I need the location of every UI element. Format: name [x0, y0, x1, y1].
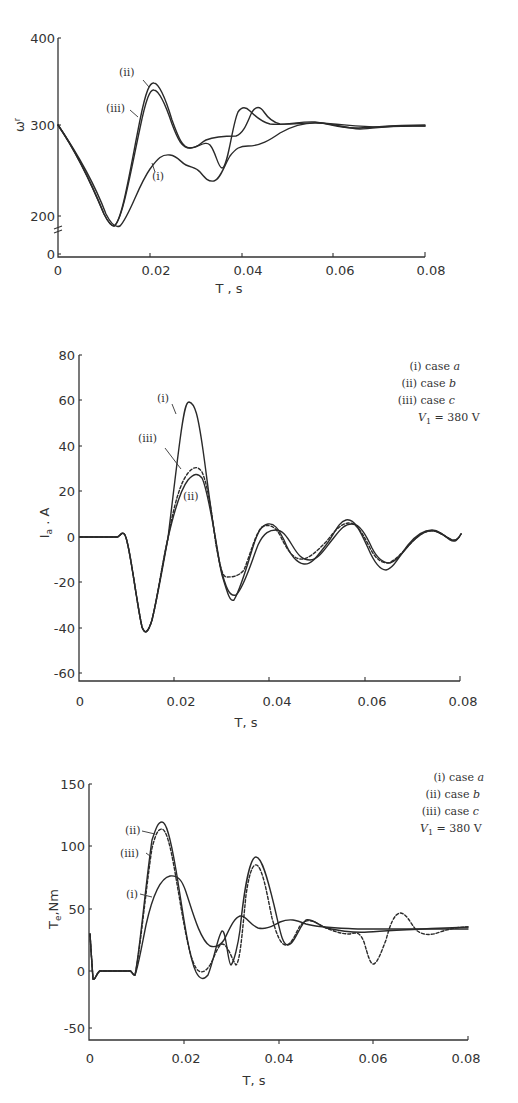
- bottom-y-tick-label: 0: [77, 964, 85, 979]
- bottom-leader-ii: [142, 831, 155, 834]
- chart-electromagnetic-torque: 150 100 50 0 -50 0 0.02 0.04 0.06 0.08 T…: [46, 771, 484, 1088]
- chart-armature-current: 80 60 40 20 0 -20 -40 -60 0 0.02 0.04 0.…: [37, 348, 481, 730]
- bottom-y-axis-label-unit: ,Nm: [46, 889, 61, 916]
- middle-y-tick-label: 40: [58, 439, 75, 454]
- bottom-annotation-i: (i): [126, 888, 138, 901]
- bottom-legend-item-ii: (ii) case b: [425, 788, 480, 801]
- middle-legend-voltage: V1 = 380 V: [418, 411, 481, 426]
- top-x-tick-label: 0.06: [326, 263, 355, 278]
- middle-curve-ii: [80, 474, 461, 631]
- bottom-legend-item-i: (i) case a: [433, 771, 484, 784]
- middle-y-tick-labels: 80 60 40 20 0 -20 -40 -60: [54, 348, 75, 681]
- top-y-tick-label: 400: [30, 31, 55, 46]
- middle-y-tick-label: -20: [54, 575, 75, 590]
- middle-annotation-iii: (iii): [138, 432, 157, 445]
- middle-x-axis-label: T, s: [234, 715, 258, 730]
- bottom-x-tick-label: 0.06: [359, 1051, 388, 1066]
- bottom-x-tick-labels: 0 0.02 0.04 0.06 0.08: [86, 1051, 481, 1066]
- middle-leader-i: [172, 404, 176, 414]
- bottom-annotation-iii: (iii): [120, 847, 139, 860]
- top-x-tick-labels: 0 0.02 0.04 0.06 0.08: [54, 263, 446, 278]
- middle-x-tick-label: 0.08: [449, 694, 478, 709]
- top-x-tick-label: 0.08: [417, 263, 446, 278]
- bottom-annotation-ii: (ii): [125, 824, 141, 837]
- top-y-tick-label: 0: [47, 247, 55, 262]
- middle-x-ticks: [174, 676, 460, 681]
- bottom-y-tick-labels: 150 100 50 0 -50: [60, 777, 85, 1036]
- bottom-curve-ii: [90, 822, 468, 979]
- chart-rotor-speed: 400 300 200 0 0 0.02 0.04 0.06 0.08 T , …: [12, 31, 445, 296]
- bottom-curve-iii: [90, 829, 468, 979]
- middle-x-tick-label: 0: [76, 694, 84, 709]
- bottom-x-tick-label: 0: [86, 1051, 94, 1066]
- figure-canvas: 400 300 200 0 0 0.02 0.04 0.06 0.08 T , …: [0, 0, 518, 1103]
- top-y-tick-label: 200: [30, 209, 55, 224]
- middle-legend-item-ii: (ii) case b: [401, 377, 456, 390]
- middle-y-tick-label: 0: [67, 530, 75, 545]
- middle-y-tick-label: -40: [54, 621, 75, 636]
- middle-y-tick-label: 80: [58, 348, 75, 363]
- bottom-legend: (i) case a (ii) case b (iii) case c V1 =…: [420, 771, 484, 837]
- middle-y-tick-label: 20: [58, 484, 75, 499]
- top-x-tick-label: 0.04: [234, 263, 263, 278]
- top-annotation-i: (i): [152, 170, 164, 183]
- bottom-y-axis-label: Te,Nm: [46, 889, 63, 930]
- bottom-y-axis-label-main: T: [46, 921, 61, 930]
- top-annotation-ii: (ii): [119, 66, 135, 79]
- top-y-tick-labels: 400 300 200 0: [30, 31, 55, 262]
- top-y-tick-label: 300: [30, 118, 55, 133]
- middle-x-tick-labels: 0 0.02 0.04 0.06 0.08: [76, 694, 478, 709]
- top-y-axis-label-main: ω: [12, 121, 27, 132]
- bottom-x-tick-label: 0.02: [172, 1051, 201, 1066]
- bottom-x-tick-label: 0.08: [452, 1051, 481, 1066]
- top-leader-iii: [130, 110, 138, 117]
- middle-y-axis-label: Ia . A: [37, 508, 54, 539]
- middle-legend-item-iii: (iii) case c: [398, 394, 455, 407]
- middle-y-axis-label-unit: . A: [37, 508, 52, 529]
- top-x-ticks: [150, 252, 425, 257]
- bottom-x-axis-label: T, s: [242, 1073, 266, 1088]
- bottom-y-tick-label: 100: [60, 839, 85, 854]
- bottom-x-tick-label: 0.04: [265, 1051, 294, 1066]
- middle-y-tick-label: -60: [54, 666, 75, 681]
- svg-text:Ia . A: Ia . A: [37, 508, 54, 539]
- top-leader-ii: [143, 80, 149, 87]
- top-x-tick-label: 0.02: [142, 263, 171, 278]
- middle-x-tick-label: 0.02: [167, 694, 196, 709]
- svg-text:ωr: ωr: [12, 117, 27, 132]
- middle-legend: (i) case a (ii) case b (iii) case c V1 =…: [398, 360, 481, 426]
- bottom-y-tick-label: 150: [60, 777, 85, 792]
- top-y-axis-label: ωr: [12, 117, 27, 132]
- bottom-legend-voltage: V1 = 380 V: [420, 822, 483, 837]
- bottom-legend-item-iii: (iii) case c: [422, 805, 479, 818]
- bottom-axes: [89, 784, 468, 1040]
- middle-x-tick-label: 0.04: [263, 694, 292, 709]
- top-y-axis-label-sub: r: [13, 117, 22, 121]
- top-x-axis-label: T , s: [214, 281, 242, 296]
- middle-legend-item-i: (i) case a: [409, 360, 460, 373]
- bottom-y-tick-label: 50: [68, 902, 85, 917]
- middle-y-tick-label: 60: [58, 393, 75, 408]
- top-annotation-iii: (iii): [106, 102, 125, 115]
- middle-annotation-ii: (ii): [183, 490, 199, 503]
- middle-x-tick-label: 0.06: [358, 694, 387, 709]
- svg-text:Te,Nm: Te,Nm: [46, 889, 63, 930]
- top-x-tick-label: 0: [54, 263, 62, 278]
- bottom-y-tick-label: -50: [64, 1021, 85, 1036]
- middle-annotation-i: (i): [157, 392, 169, 405]
- top-curve-i: [58, 123, 425, 227]
